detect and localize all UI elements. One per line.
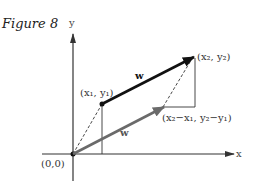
y-axis-label: y [68, 17, 75, 28]
point-p2-label: (x₂, y₂) [197, 51, 231, 62]
point-p1 [100, 102, 105, 107]
vector-diagram: Figure 8 y x (0,0) w w (x₁, y₁) (x₂, y₂)… [0, 0, 253, 190]
vector-w-upper-label: w [134, 70, 144, 81]
vector-w-lower-label: w [119, 127, 129, 138]
origin-label: (0,0) [41, 158, 65, 169]
vector-w-upper [102, 57, 194, 104]
difference-point-label: (x₂−x₁, y₂−y₁) [162, 112, 232, 123]
x-axis-label: x [236, 148, 242, 159]
point-p1-label: (x₁, y₁) [80, 87, 114, 98]
figure-title: Figure 8 [1, 16, 58, 31]
